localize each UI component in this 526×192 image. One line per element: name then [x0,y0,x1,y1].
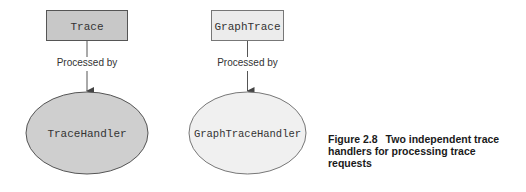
trace-handler-label: TraceHandler [47,128,126,140]
graph-trace-handler-label: GraphTraceHandler [194,128,301,140]
figure-number: Figure 2.8 [328,133,378,145]
right-flow: GraphTrace Processed by GraphTraceHandle… [189,11,306,175]
left-flow: Trace Processed by TraceHandler [26,11,148,175]
trace-box-label: Trace [70,21,103,33]
graph-trace-box-label: GraphTrace [214,21,280,33]
left-edge-label: Processed by [57,57,118,68]
right-edge-label: Processed by [217,57,278,68]
figure-caption: Figure 2.8Two independent trace handlers… [328,133,518,169]
